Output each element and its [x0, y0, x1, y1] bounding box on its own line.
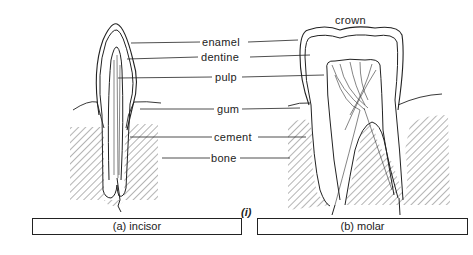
label-pulp: pulp — [214, 71, 238, 83]
incisor-drawing — [70, 24, 161, 212]
label-enamel: enamel — [201, 36, 241, 48]
label-bone: bone — [210, 152, 238, 164]
label-crown: crown — [334, 14, 367, 26]
molar-drawing — [288, 27, 450, 215]
caption-incisor: (a) incisor — [32, 218, 242, 235]
label-cement: cement — [213, 131, 253, 143]
caption-molar: (b) molar — [257, 218, 468, 235]
label-gum: gum — [216, 103, 240, 115]
label-dentine: dentine — [200, 51, 240, 63]
figure-label: (i) — [241, 206, 251, 218]
